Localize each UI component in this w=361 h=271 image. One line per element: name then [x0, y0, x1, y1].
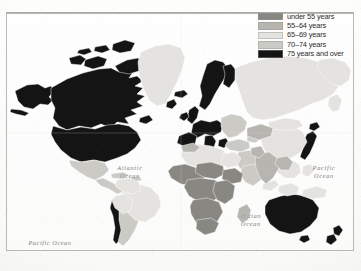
legend-label-70-74: 70–74 years	[287, 41, 326, 49]
legend-label-under-55: under 55 years	[287, 13, 334, 21]
world-map-figure: Atlantic Ocean Pacific Ocean Indian Ocea…	[0, 0, 361, 271]
legend-item-75-over: 75 years and over	[258, 50, 358, 59]
legend-swatch-75-over	[258, 50, 283, 58]
legend-item-65-69: 65–69 years	[258, 31, 358, 40]
legend-label-75-over: 75 years and over	[287, 50, 344, 58]
legend-item-under-55: under 55 years	[258, 12, 358, 21]
legend-swatch-70-74	[258, 41, 283, 49]
legend-item-55-64: 55–64 years	[258, 21, 358, 30]
map-legend: under 55 years 55–64 years 65–69 years 7…	[258, 12, 358, 59]
legend-item-70-74: 70–74 years	[258, 40, 358, 49]
legend-label-55-64: 55–64 years	[287, 22, 326, 30]
legend-swatch-55-64	[258, 22, 283, 30]
legend-swatch-under-55	[258, 13, 283, 21]
legend-label-65-69: 65–69 years	[287, 31, 326, 39]
legend-swatch-65-69	[258, 32, 283, 40]
